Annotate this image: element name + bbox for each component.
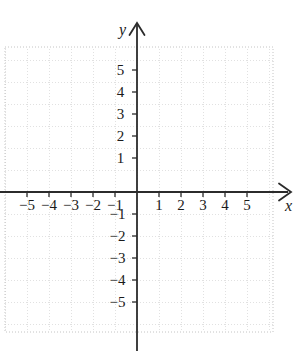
y-tick-label--4: −4 bbox=[105, 273, 130, 288]
y-tick-label--2: −2 bbox=[105, 229, 130, 244]
x-tick-label-2: 2 bbox=[170, 198, 192, 213]
y-tick-label-2: 2 bbox=[111, 129, 130, 144]
coordinate-grid-svg bbox=[0, 0, 304, 351]
x-tick-label--4: −4 bbox=[38, 198, 60, 213]
x-tick-label--5: −5 bbox=[16, 198, 38, 213]
x-tick-label-1: 1 bbox=[148, 198, 170, 213]
y-tick-label-4: 4 bbox=[111, 85, 130, 100]
y-tick-label-3: 3 bbox=[111, 107, 130, 122]
x-tick-label--2: −2 bbox=[82, 198, 104, 213]
grid-lines bbox=[5, 47, 273, 332]
x-tick-label--3: −3 bbox=[60, 198, 82, 213]
y-tick-label--1: −1 bbox=[105, 207, 130, 222]
coordinate-plane-figure: −5 −4 −3 −2 −1 1 2 3 4 5 5 4 3 2 1 −1 −2… bbox=[0, 0, 304, 351]
y-tick-label--3: −3 bbox=[105, 251, 130, 266]
y-tick-label-5: 5 bbox=[111, 63, 130, 78]
x-tick-label-5: 5 bbox=[236, 198, 258, 213]
x-tick-label-4: 4 bbox=[214, 198, 236, 213]
y-tick-label--5: −5 bbox=[105, 295, 130, 310]
x-tick-label-3: 3 bbox=[192, 198, 214, 213]
y-axis-label: y bbox=[119, 22, 126, 38]
y-tick-label-1: 1 bbox=[111, 151, 130, 166]
x-axis-label: x bbox=[285, 198, 292, 214]
